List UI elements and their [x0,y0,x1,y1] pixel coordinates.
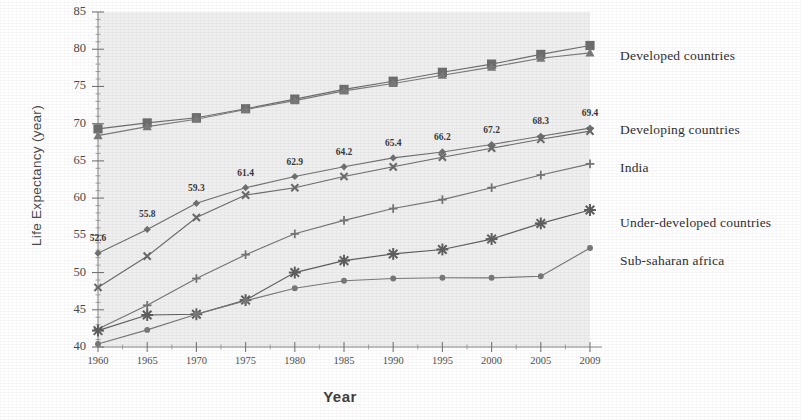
data-label-52.6: 52.6 [78,233,118,243]
x-tick-1985: 1985 [321,355,367,366]
data-label-55.8: 55.8 [127,209,167,219]
legend-item-india[interactable]: India [620,160,649,176]
y-tick-65: 65 [52,153,86,168]
x-tick-1975: 1975 [223,355,269,366]
x-tick-1965: 1965 [124,355,170,366]
data-label-65.4: 65.4 [373,138,413,148]
data-label-62.9: 62.9 [275,157,315,167]
data-label-67.2: 67.2 [472,125,512,135]
x-tick-2009: 2009 [567,355,613,366]
y-tick-75: 75 [52,78,86,93]
y-tick-40: 40 [52,339,86,354]
x-tick-1990: 1990 [370,355,416,366]
x-tick-1995: 1995 [419,355,465,366]
y-axis-title: Life Expectancy (year) [29,56,44,296]
data-label-64.2: 64.2 [324,147,364,157]
x-tick-2005: 2005 [518,355,564,366]
x-tick-2000: 2000 [469,355,515,366]
y-tick-45: 45 [52,302,86,317]
y-tick-50: 50 [52,265,86,280]
data-label-59.3: 59.3 [176,183,216,193]
legend-item-developing-countries[interactable]: Developing countries [620,122,740,138]
data-label-61.4: 61.4 [226,168,266,178]
y-tick-80: 80 [52,41,86,56]
data-label-68.3: 68.3 [521,116,561,126]
x-tick-1960: 1960 [75,355,121,366]
legend-item-under-developed-countries[interactable]: Under-developed countries [620,215,771,231]
y-tick-70: 70 [52,116,86,131]
y-tick-60: 60 [52,190,86,205]
y-tick-85: 85 [52,4,86,19]
x-tick-1970: 1970 [173,355,219,366]
life-expectancy-chart: Life Expectancy (year) Year 404550556065… [0,0,801,420]
x-tick-1980: 1980 [272,355,318,366]
legend-item-developed-countries[interactable]: Developed countries [620,48,735,64]
data-label-69.4: 69.4 [570,108,610,118]
data-label-66.2: 66.2 [422,132,462,142]
legend-item-sub-saharan-africa[interactable]: Sub-saharan africa [620,253,724,269]
x-axis-title: Year [180,388,500,405]
